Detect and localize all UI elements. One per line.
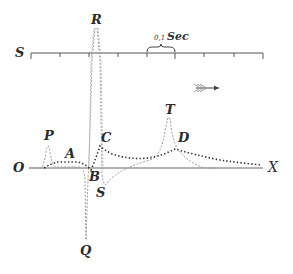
- origin-label: O: [13, 160, 25, 175]
- wave-labels: P A R B C S Q T D: [43, 12, 190, 258]
- label-c: C: [101, 130, 112, 145]
- scale-unit: Sec: [167, 30, 189, 43]
- label-q: Q: [80, 243, 92, 258]
- time-scale-axis: S 0,1 Sec: [15, 30, 263, 60]
- label-r: R: [90, 12, 102, 27]
- time-ticks: [31, 53, 263, 59]
- arrow-right-icon: [194, 84, 219, 92]
- time-axis-label: S: [15, 45, 24, 60]
- baseline: O X: [13, 159, 279, 175]
- label-a: A: [63, 146, 75, 161]
- x-axis-label: X: [267, 159, 279, 175]
- label-b: B: [88, 169, 100, 184]
- label-d: D: [177, 130, 190, 145]
- scale-brace: [147, 44, 175, 52]
- label-t: T: [165, 102, 176, 117]
- label-p: P: [43, 128, 55, 143]
- scale-value: 0,1: [154, 34, 165, 42]
- ecg-diagram: S 0,1 Sec O X P A: [0, 0, 293, 274]
- label-s: S: [96, 185, 105, 200]
